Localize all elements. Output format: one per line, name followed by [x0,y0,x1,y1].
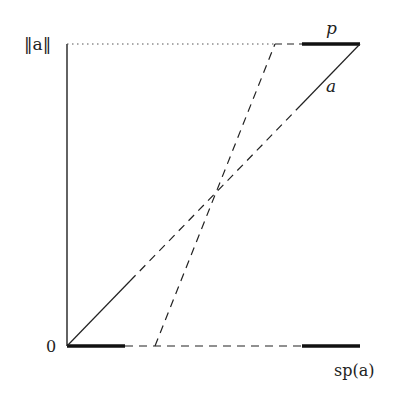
diagram: ‖a‖ 0 p a sp(a) [0,0,406,398]
label-sp-a: sp(a) [334,361,374,380]
line-a-dashed [130,106,300,281]
steep-dashed-line [155,44,275,346]
label-a: a [326,76,336,96]
label-p: p [326,18,337,38]
label-zero: 0 [46,337,56,356]
line-a-solid-upper [300,44,360,106]
line-a-solid-lower [67,281,130,346]
label-norm-a: ‖a‖ [24,34,51,54]
